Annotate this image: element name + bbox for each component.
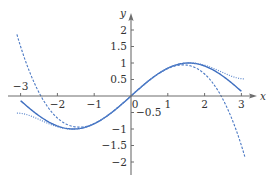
y-axis-label: y [119,7,127,19]
y-tick-label: −1.5 [102,139,128,151]
x-tick-label: 1 [164,98,171,110]
y-axis: 21.510.5−0.5−1−1.5−2 y [102,7,162,175]
x-ticks: −3−2−10123 [13,80,245,110]
y-tick-label: 2 [120,24,127,36]
x-tick-label: 2 [201,98,208,110]
x-tick-label: −2 [50,98,65,110]
y-tick-label: −2 [112,156,127,168]
y-tick-label: −0.5 [136,106,162,118]
y-tick-label: 1 [120,57,127,69]
y-tick-label: 1.5 [110,40,127,52]
y-tick-label: 0.5 [110,73,127,85]
x-tick-label: −1 [86,98,101,110]
y-tick-label: −1 [112,123,127,135]
x-tick-label: 3 [238,98,245,110]
x-tick-label: −3 [13,80,28,92]
x-axis-label: x [260,90,266,102]
chart: −3−2−10123 x 21.510.5−0.5−1−1.5−2 y [0,0,269,180]
